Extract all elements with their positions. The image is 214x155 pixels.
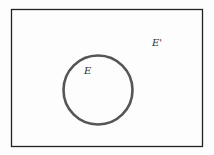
venn-diagram: E E' — [0, 0, 214, 155]
complement-label: E' — [151, 37, 162, 48]
universe-rectangle — [12, 10, 203, 147]
event-label: E — [83, 65, 92, 76]
